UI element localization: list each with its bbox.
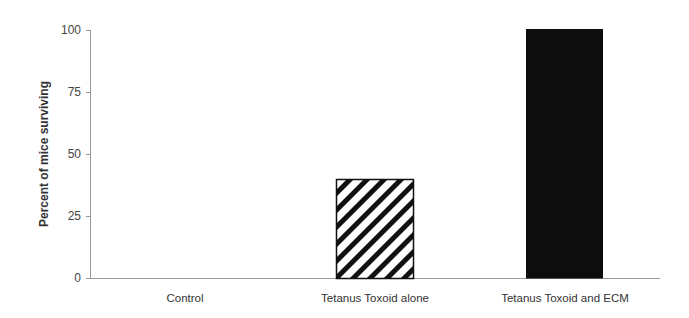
x-tick-labels: Control Tetanus Toxoid alone Tetanus Tox… [166, 292, 628, 304]
y-tick-100: 100 [61, 23, 81, 37]
y-tick-50: 50 [68, 147, 82, 161]
category-tetanus-toxoid-and-ecm: Tetanus Toxoid and ECM [501, 292, 629, 304]
y-axis-label: Percent of mice surviving [37, 81, 51, 227]
bar-chart: 100 75 50 25 0 Percent of mice surviving… [0, 0, 689, 318]
bar-tetanus-toxoid-alone [337, 180, 414, 279]
bar-tetanus-toxoid-and-ecm [526, 29, 603, 279]
y-tick-0: 0 [74, 271, 81, 285]
y-ticks [86, 31, 90, 279]
y-tick-25: 25 [68, 209, 82, 223]
y-tick-labels: 100 75 50 25 0 [61, 23, 81, 285]
category-tetanus-toxoid-alone: Tetanus Toxoid alone [321, 292, 429, 304]
y-tick-75: 75 [68, 85, 82, 99]
category-control: Control [166, 292, 203, 304]
